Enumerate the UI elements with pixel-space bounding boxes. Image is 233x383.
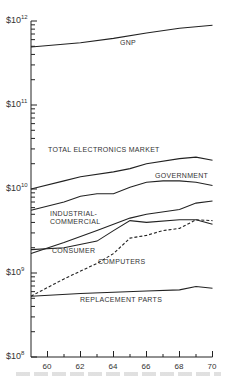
x-tick-label-64: 64 bbox=[109, 362, 118, 371]
x-tick-label-60: 60 bbox=[43, 362, 52, 371]
series-replacement-parts bbox=[31, 287, 213, 297]
series-label-government: GOVERNMENT bbox=[155, 172, 208, 180]
y-tick-label-1e11: $1011 bbox=[6, 98, 27, 109]
y-tick-label-1e10: $1010 bbox=[6, 182, 28, 193]
series-label-gnp: GNP bbox=[120, 39, 136, 47]
series-label-consumer: CONSUMER bbox=[52, 247, 95, 255]
chart-canvas bbox=[0, 0, 233, 383]
y-tick-label-1e12: $1012 bbox=[6, 14, 28, 25]
series-industrial-commercial bbox=[31, 201, 213, 254]
series-government bbox=[31, 181, 213, 210]
x-tick-label-68: 68 bbox=[175, 362, 184, 371]
axes bbox=[31, 21, 213, 357]
x-tick-label-66: 66 bbox=[142, 362, 151, 371]
series-label-industrial: INDUSTRIAL-COMMERCIAL bbox=[50, 210, 100, 226]
figure-caption-cutoff bbox=[16, 372, 221, 376]
series-lines bbox=[31, 25, 213, 296]
y-tick-label-1e8: $108 bbox=[6, 350, 24, 361]
x-tick-label-70: 70 bbox=[208, 362, 217, 371]
series-label-replacement-parts: REPLACEMENT PARTS bbox=[80, 296, 162, 304]
y-tick-label-1e9: $109 bbox=[6, 266, 24, 277]
x-tick-label-62: 62 bbox=[76, 362, 85, 371]
series-label-computers: COMPUTERS bbox=[98, 258, 145, 266]
series-label-total-electronics: TOTAL ELECTRONICS MARKET bbox=[48, 146, 160, 154]
